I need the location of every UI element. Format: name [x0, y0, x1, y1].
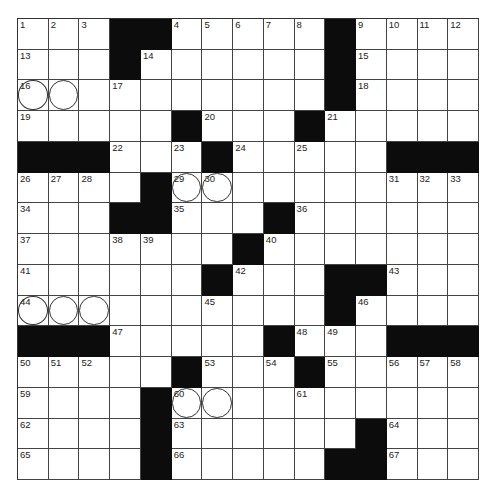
grid-cell[interactable]: 34: [18, 203, 49, 234]
grid-cell[interactable]: 33: [448, 173, 479, 204]
grid-cell[interactable]: [49, 203, 80, 234]
grid-cell[interactable]: [202, 50, 233, 81]
grid-cell[interactable]: 18: [356, 80, 387, 111]
grid-cell[interactable]: [172, 296, 203, 327]
grid-cell[interactable]: [49, 111, 80, 142]
grid-cell[interactable]: [79, 265, 110, 296]
grid-cell[interactable]: 32: [418, 173, 449, 204]
grid-cell[interactable]: 10: [387, 19, 418, 50]
grid-cell[interactable]: 51: [49, 357, 80, 388]
grid-cell[interactable]: [325, 419, 356, 450]
grid-cell[interactable]: [141, 326, 172, 357]
grid-cell[interactable]: [233, 111, 264, 142]
grid-cell[interactable]: 50: [18, 357, 49, 388]
grid-cell[interactable]: [79, 234, 110, 265]
grid-cell[interactable]: 21: [325, 111, 356, 142]
grid-cell[interactable]: 45: [202, 296, 233, 327]
grid-cell[interactable]: [264, 80, 295, 111]
grid-cell[interactable]: 16: [18, 80, 49, 111]
grid-cell[interactable]: [202, 203, 233, 234]
grid-cell[interactable]: [295, 173, 326, 204]
grid-cell[interactable]: [233, 388, 264, 419]
grid-cell[interactable]: [49, 265, 80, 296]
grid-cell[interactable]: 41: [18, 265, 49, 296]
grid-cell[interactable]: [418, 50, 449, 81]
grid-cell[interactable]: [202, 234, 233, 265]
grid-cell[interactable]: [295, 419, 326, 450]
grid-cell[interactable]: [448, 111, 479, 142]
grid-cell[interactable]: [202, 419, 233, 450]
grid-cell[interactable]: [356, 111, 387, 142]
grid-cell[interactable]: 37: [18, 234, 49, 265]
grid-cell[interactable]: [295, 234, 326, 265]
grid-cell[interactable]: [264, 111, 295, 142]
grid-cell[interactable]: 52: [79, 357, 110, 388]
grid-cell[interactable]: 28: [79, 173, 110, 204]
grid-cell[interactable]: 48: [295, 326, 326, 357]
grid-cell[interactable]: 29: [172, 173, 203, 204]
grid-cell[interactable]: 58: [448, 357, 479, 388]
grid-cell[interactable]: 66: [172, 449, 203, 480]
grid-cell[interactable]: 56: [387, 357, 418, 388]
grid-cell[interactable]: [418, 234, 449, 265]
grid-cell[interactable]: [49, 449, 80, 480]
grid-cell[interactable]: 19: [18, 111, 49, 142]
grid-cell[interactable]: [448, 203, 479, 234]
grid-cell[interactable]: [356, 142, 387, 173]
grid-cell[interactable]: [110, 173, 141, 204]
grid-cell[interactable]: 9: [356, 19, 387, 50]
grid-cell[interactable]: 53: [202, 357, 233, 388]
grid-cell[interactable]: 11: [418, 19, 449, 50]
grid-cell[interactable]: 1: [18, 19, 49, 50]
grid-cell[interactable]: [448, 80, 479, 111]
grid-cell[interactable]: [110, 449, 141, 480]
grid-cell[interactable]: 57: [418, 357, 449, 388]
grid-cell[interactable]: [172, 326, 203, 357]
grid-cell[interactable]: [79, 449, 110, 480]
grid-cell[interactable]: [356, 388, 387, 419]
grid-cell[interactable]: [295, 449, 326, 480]
grid-cell[interactable]: [110, 388, 141, 419]
grid-cell[interactable]: 47: [110, 326, 141, 357]
grid-cell[interactable]: 36: [295, 203, 326, 234]
grid-cell[interactable]: [141, 80, 172, 111]
grid-cell[interactable]: [79, 80, 110, 111]
grid-cell[interactable]: [448, 50, 479, 81]
grid-cell[interactable]: [264, 50, 295, 81]
grid-cell[interactable]: [387, 80, 418, 111]
grid-cell[interactable]: [110, 419, 141, 450]
grid-cell[interactable]: [264, 265, 295, 296]
grid-cell[interactable]: 61: [295, 388, 326, 419]
grid-cell[interactable]: [264, 449, 295, 480]
grid-cell[interactable]: [79, 50, 110, 81]
grid-cell[interactable]: [295, 80, 326, 111]
grid-cell[interactable]: [233, 50, 264, 81]
grid-cell[interactable]: 43: [387, 265, 418, 296]
grid-cell[interactable]: 55: [325, 357, 356, 388]
grid-cell[interactable]: [202, 449, 233, 480]
grid-cell[interactable]: [356, 173, 387, 204]
grid-cell[interactable]: 62: [18, 419, 49, 450]
grid-cell[interactable]: [233, 357, 264, 388]
grid-cell[interactable]: 60: [172, 388, 203, 419]
grid-cell[interactable]: [49, 234, 80, 265]
grid-cell[interactable]: [49, 388, 80, 419]
grid-cell[interactable]: [356, 234, 387, 265]
grid-cell[interactable]: [356, 203, 387, 234]
grid-cell[interactable]: [325, 234, 356, 265]
grid-cell[interactable]: 49: [325, 326, 356, 357]
grid-cell[interactable]: [295, 50, 326, 81]
grid-cell[interactable]: 67: [387, 449, 418, 480]
grid-cell[interactable]: 27: [49, 173, 80, 204]
grid-cell[interactable]: [387, 50, 418, 81]
grid-cell[interactable]: [325, 388, 356, 419]
grid-cell[interactable]: [418, 449, 449, 480]
grid-cell[interactable]: [202, 326, 233, 357]
grid-cell[interactable]: [110, 111, 141, 142]
grid-cell[interactable]: [325, 203, 356, 234]
grid-cell[interactable]: [202, 80, 233, 111]
grid-cell[interactable]: [418, 265, 449, 296]
grid-cell[interactable]: 20: [202, 111, 233, 142]
grid-cell[interactable]: [49, 419, 80, 450]
grid-cell[interactable]: 17: [110, 80, 141, 111]
